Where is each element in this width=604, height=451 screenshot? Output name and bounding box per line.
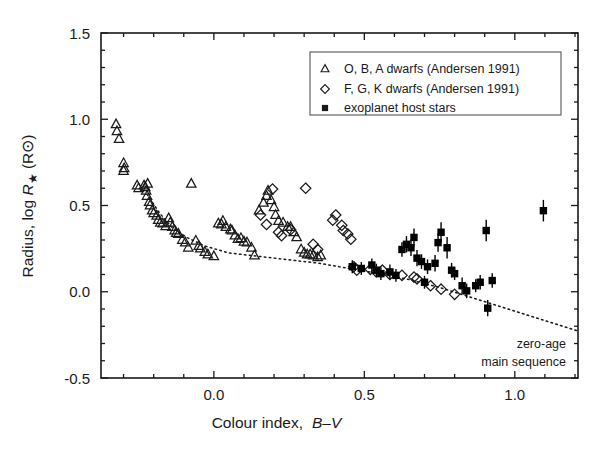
point-marker-square [392, 272, 399, 279]
scatter-plot-figure: 0.00.51.01.51.00.50.0-0.5 Colour index, … [0, 0, 604, 451]
point-marker-square [484, 304, 491, 311]
zams-annotation-line-1: zero-age [517, 337, 566, 351]
x-tick-label: 1.0 [504, 386, 525, 403]
point-marker-square [463, 287, 470, 294]
point-marker-square [377, 270, 384, 277]
y-tick-label: 1.5 [69, 25, 90, 42]
y-tick-label: 0.5 [69, 197, 90, 214]
legend-item-exoplanet-hosts: exoplanet host stars [344, 101, 456, 115]
point-marker-square [349, 263, 356, 270]
point-marker-square [358, 265, 365, 272]
y-axis-label-text: Radius, log [19, 200, 36, 278]
y-axis-label-math: R [19, 184, 36, 195]
zams-annotation-line-2: main sequence [481, 355, 566, 369]
x-axis-label-text: Colour index, [212, 414, 303, 431]
y-tick-label: -0.5 [64, 370, 90, 387]
x-tick-label: 0.5 [354, 386, 375, 403]
legend: O, B, A dwarfs (Andersen 1991) F, G, K d… [310, 52, 561, 115]
point-marker-square [443, 244, 450, 251]
y-axis-label-star: ★ [26, 173, 40, 184]
point-marker-square [431, 260, 438, 267]
point-marker-square [424, 263, 431, 270]
point-marker-square [410, 234, 417, 241]
point-marker-square [483, 227, 490, 234]
point-marker-square [476, 279, 483, 286]
plot-svg: 0.00.51.01.51.00.50.0-0.5 Colour index, … [0, 0, 604, 451]
point-marker-square [437, 229, 444, 236]
svg-text:Colour index,: Colour index, [212, 414, 303, 431]
point-marker-square [451, 270, 458, 277]
y-tick-label: 0.0 [69, 283, 90, 300]
legend-item-oba-dwarfs: O, B, A dwarfs (Andersen 1991) [344, 62, 520, 76]
point-marker-square [421, 279, 428, 286]
x-tick-label: 0.0 [203, 386, 224, 403]
legend-marker-square-icon [322, 105, 328, 111]
x-axis-label-math: B–V [312, 414, 343, 431]
x-axis-label: Colour index, B–V [212, 414, 343, 431]
legend-item-fgk-dwarfs: F, G, K dwarfs (Andersen 1991) [344, 82, 519, 96]
point-marker-square [540, 207, 547, 214]
point-marker-square [489, 277, 496, 284]
y-axis-label-units: (R⊙) [19, 135, 36, 170]
y-tick-label: 1.0 [69, 111, 90, 128]
svg-text:B–V: B–V [312, 414, 343, 431]
